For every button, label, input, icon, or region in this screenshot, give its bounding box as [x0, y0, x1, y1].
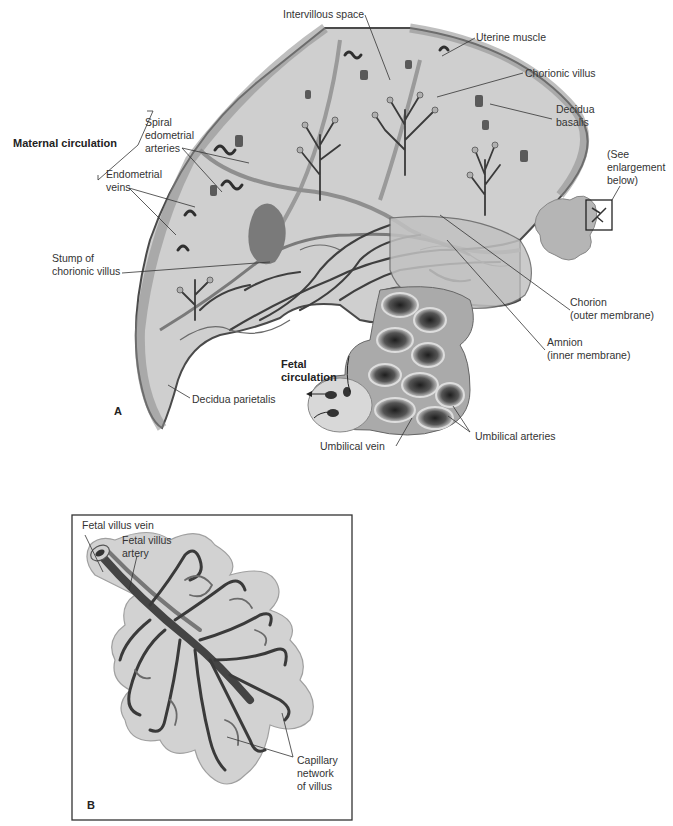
label-uterine-muscle: Uterine muscle [476, 31, 546, 44]
label-umbilical-arteries: Umbilical arteries [475, 430, 556, 443]
label-fetal-villus-artery: Fetal villus artery [122, 534, 172, 560]
label-chorion: Chorion (outer membrane) [570, 296, 654, 322]
villus-enlargement [87, 533, 313, 785]
label-intervillous-space: Intervillous space [283, 8, 364, 21]
label-stump-chorionic-villus: Stump of chorionic villus [52, 252, 120, 278]
label-spiral-arteries: Spiral edometrial arteries [145, 116, 194, 155]
label-fetal-villus-vein: Fetal villus vein [82, 519, 154, 532]
label-see-enlargement: (See enlargement below) [607, 148, 665, 187]
label-amnion: Amnion (inner membrane) [547, 336, 630, 362]
panel-letter-b: B [87, 799, 95, 811]
label-decidua-basalis: Decidua basalis [556, 103, 595, 129]
label-umbilical-vein: Umbilical vein [320, 440, 385, 453]
panel-letter-a: A [114, 405, 122, 417]
label-endometrial-veins: Endometrial veins [106, 168, 162, 194]
label-maternal-circulation: Maternal circulation [13, 137, 117, 150]
label-chorionic-villus: Chorionic villus [525, 67, 596, 80]
label-decidua-parietalis: Decidua parietalis [192, 393, 275, 406]
label-fetal-circulation: Fetal circulation [281, 358, 337, 384]
label-capillary-network: Capillary network of villus [297, 754, 338, 793]
